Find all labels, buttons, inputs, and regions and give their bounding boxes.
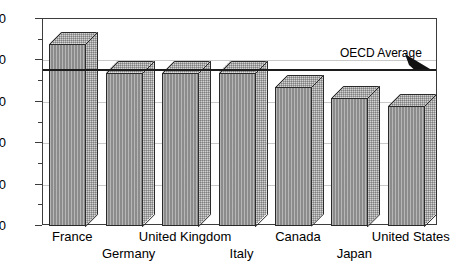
bar-front-face (49, 44, 86, 226)
bar-side-outline (311, 75, 325, 228)
bar-side-outline (142, 61, 156, 228)
bar (106, 61, 154, 226)
bar-front-face (275, 87, 312, 226)
y-axis: 50403020100 (0, 0, 42, 268)
bar-front-face (219, 73, 256, 226)
y-tick-label: 40 (0, 53, 6, 66)
plot-area: OECD Average (42, 18, 437, 225)
bar-side-outline (255, 61, 269, 228)
bar-side-outline (85, 32, 99, 228)
oecd-average-line (43, 69, 436, 71)
x-tick-label: United States (372, 230, 450, 243)
x-tick-label: Canada (275, 230, 321, 243)
y-tick-label: 10 (0, 177, 6, 190)
bar (219, 61, 267, 226)
y-tick-label: 20 (0, 136, 6, 149)
bar-side-outline (367, 86, 381, 228)
y-tick-label: 30 (0, 94, 6, 107)
y-tick-major (35, 59, 42, 60)
y-tick-label: 0 (0, 219, 6, 232)
y-tick-major (35, 225, 42, 226)
bar-front-face (106, 73, 143, 226)
x-tick-label: United Kingdom (139, 230, 232, 243)
bar (388, 94, 436, 226)
bar-front-face (331, 98, 368, 226)
x-tick-label: Japan (337, 247, 372, 260)
y-tick-major (35, 142, 42, 143)
y-tick-label: 50 (0, 12, 6, 25)
bar (275, 75, 323, 226)
bar-chart: 50403020100 OECD Average FranceGermanyUn… (0, 0, 452, 268)
x-tick-label: France (52, 230, 92, 243)
y-tick-major (35, 18, 42, 19)
bar-side-outline (424, 94, 438, 228)
bar-front-face (388, 106, 425, 226)
bar-side-outline (198, 61, 212, 228)
bar-front-face (162, 73, 199, 226)
oecd-average-arrow-icon (405, 53, 431, 75)
bar (331, 86, 379, 226)
bar (49, 32, 97, 226)
y-tick-major (35, 101, 42, 102)
x-tick-label: Italy (230, 247, 254, 260)
x-tick-label: Germany (102, 247, 155, 260)
bar (162, 61, 210, 226)
y-tick-major (35, 184, 42, 185)
